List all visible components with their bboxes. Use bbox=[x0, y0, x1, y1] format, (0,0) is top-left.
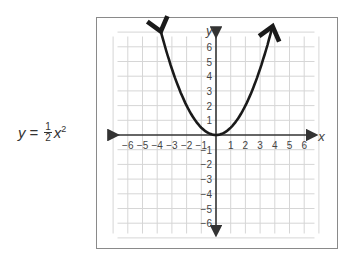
y-tick-label: −2 bbox=[201, 159, 213, 170]
x-tick-label: 4 bbox=[272, 140, 278, 151]
x-tick-label: 1 bbox=[228, 140, 234, 151]
y-tick-label: 1 bbox=[206, 115, 212, 126]
y-tick-label: 2 bbox=[206, 101, 212, 112]
y-tick-label: −5 bbox=[201, 204, 213, 215]
x-tick-label: −5 bbox=[137, 140, 149, 151]
y-tick-label: −4 bbox=[201, 189, 213, 200]
x-tick-label: 2 bbox=[243, 140, 249, 151]
y-tick-label: 3 bbox=[206, 86, 212, 97]
x-tick-label: 6 bbox=[301, 140, 307, 151]
y-tick-label: −1 bbox=[201, 145, 213, 156]
x-tick-label: −2 bbox=[181, 140, 193, 151]
y-tick-label: −3 bbox=[201, 174, 213, 185]
x-tick-label: −3 bbox=[166, 140, 178, 151]
y-tick-label: 4 bbox=[206, 71, 212, 82]
x-tick-label: −6 bbox=[122, 140, 134, 151]
x-tick-label: 3 bbox=[257, 140, 263, 151]
y-tick-label: 6 bbox=[206, 42, 212, 53]
x-axis-label: x bbox=[317, 129, 325, 144]
y-axis-label: y bbox=[205, 23, 214, 38]
coordinate-plane: −6−5−4−3−2−1123456−6−5−4−3−2−1123456xy bbox=[0, 0, 347, 255]
x-tick-label: −4 bbox=[151, 140, 163, 151]
y-tick-label: 5 bbox=[206, 57, 212, 68]
x-tick-label: 5 bbox=[287, 140, 293, 151]
y-tick-label: −6 bbox=[201, 218, 213, 229]
